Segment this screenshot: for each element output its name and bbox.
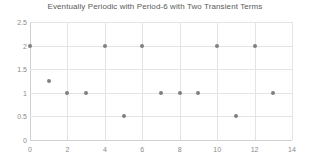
x-axis-tick-label: 6: [132, 146, 152, 153]
data-point: [122, 114, 126, 118]
data-point: [84, 91, 88, 95]
scatter-chart: Eventually Periodic with Period-6 with T…: [0, 0, 310, 164]
y-axis-tick-label: 0.5: [3, 113, 27, 120]
data-point: [47, 79, 51, 83]
data-point: [178, 91, 182, 95]
x-axis-tick-label: 4: [95, 146, 115, 153]
x-axis-tick-label: 2: [57, 146, 77, 153]
y-axis-tick-label: 1.5: [3, 66, 27, 73]
gridline-vertical: [217, 22, 218, 140]
x-axis-tick-label: 10: [207, 146, 227, 153]
y-axis-tick-label: 1: [3, 90, 27, 97]
data-point: [159, 91, 163, 95]
gridline-vertical: [292, 22, 293, 140]
data-point: [253, 44, 257, 48]
data-point: [234, 114, 238, 118]
y-axis-tick-labels: 00.511.522.5: [0, 0, 27, 164]
gridline-horizontal: [30, 116, 292, 117]
x-axis-line: [30, 140, 292, 141]
y-axis-tick-label: 2.5: [3, 19, 27, 26]
data-point: [215, 44, 219, 48]
gridline-vertical: [255, 22, 256, 140]
x-axis-tick-label: 0: [20, 146, 40, 153]
gridline-vertical: [67, 22, 68, 140]
gridline-horizontal: [30, 22, 292, 23]
x-axis-tick-label: 8: [170, 146, 190, 153]
y-axis-tick-label: 0: [3, 137, 27, 144]
data-point: [103, 44, 107, 48]
chart-title: Eventually Periodic with Period-6 with T…: [0, 2, 310, 11]
data-point: [196, 91, 200, 95]
data-point: [65, 91, 69, 95]
plot-area: [30, 22, 292, 140]
x-axis-tick-label: 12: [245, 146, 265, 153]
gridline-horizontal: [30, 69, 292, 70]
x-axis-tick-label: 14: [282, 146, 302, 153]
gridline-vertical: [180, 22, 181, 140]
data-point: [271, 91, 275, 95]
data-point: [28, 44, 32, 48]
y-axis-tick-label: 2: [3, 43, 27, 50]
gridline-vertical: [142, 22, 143, 140]
data-point: [140, 44, 144, 48]
gridline-vertical: [105, 22, 106, 140]
